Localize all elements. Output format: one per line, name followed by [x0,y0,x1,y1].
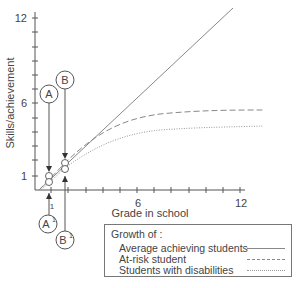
line-at-risk [39,110,263,190]
legend-item-disabilities: Students with disabilities [119,264,289,277]
callout-b-bottom-superscript: 1 [69,232,73,239]
arrowhead-up-icon [46,193,52,199]
y-tick-label-12: 12 [15,12,27,24]
legend: Growth of : Average achieving students A… [104,224,292,277]
dashed-line-swatch-icon [247,259,285,260]
callout-a-bottom-label: A [42,218,50,230]
x-tick-mark-1: 1 [50,202,55,211]
legend-label: Students with disabilities [119,264,233,276]
y-tick-label-1: 1 [21,170,27,182]
dotted-line-swatch-icon [247,270,285,271]
y-axis-label: Skills/achievement [4,57,16,148]
x-axis-label: Grade in school [111,207,188,219]
arrowhead-down-icon [46,166,52,172]
point-marker-b-lower [62,166,69,173]
callout-a-bottom-superscript: 1 [52,216,56,223]
y-tick-label-6: 6 [21,97,27,109]
legend-title: Growth of : [111,228,162,240]
point-marker-a-lower [46,179,53,186]
callout-a-top-label: A [45,88,53,100]
callout-b-top-label: B [61,74,68,86]
arrowhead-down-icon [62,153,68,159]
solid-line-swatch-icon [247,248,285,249]
x-tick-label-12: 12 [235,197,247,209]
arrowhead-up-icon [62,176,68,182]
callout-b-bottom-label: B [59,234,66,246]
line-disabilities [41,126,263,190]
